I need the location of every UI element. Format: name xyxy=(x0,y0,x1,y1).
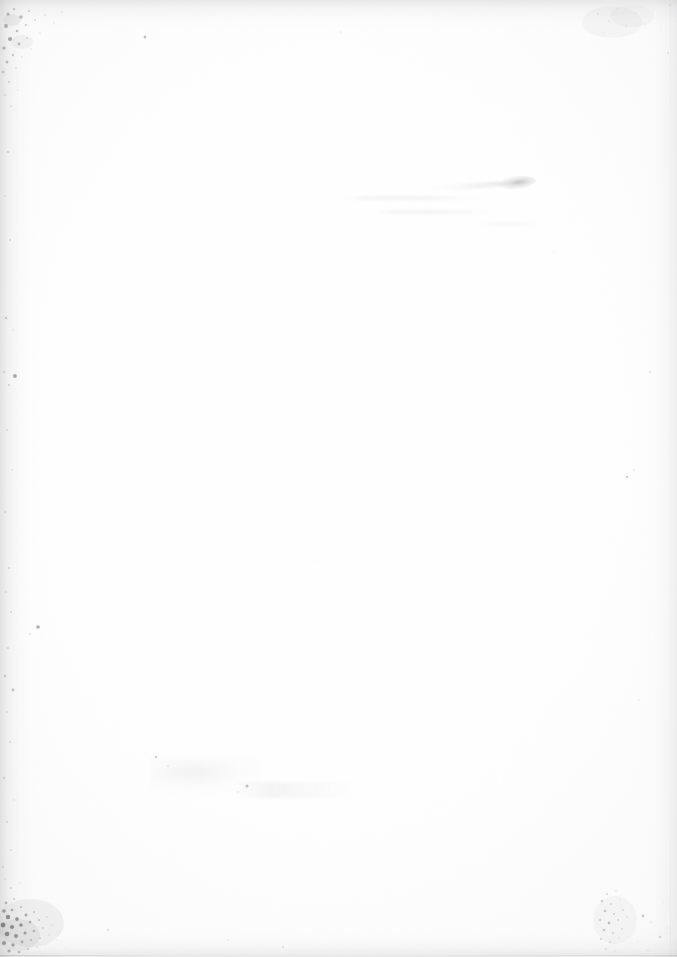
scanned-blank-page xyxy=(0,0,677,957)
page-text-content xyxy=(70,90,610,870)
